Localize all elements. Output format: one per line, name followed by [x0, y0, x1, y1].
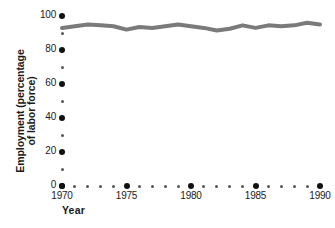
- plot-area: [0, 0, 335, 228]
- employment-line-chart: Employment (percentage of labor force) 0…: [0, 0, 335, 228]
- employment-data-line: [62, 23, 320, 31]
- x-axis-label: Year: [62, 204, 85, 216]
